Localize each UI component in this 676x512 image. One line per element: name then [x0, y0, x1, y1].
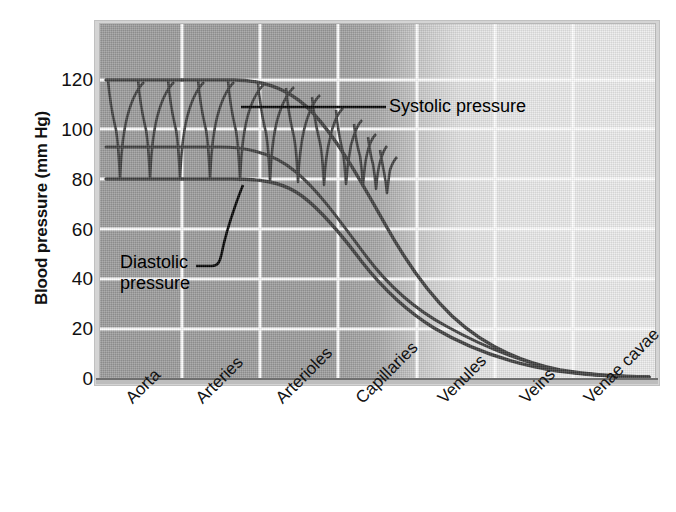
- y-tick-120: 120: [51, 70, 93, 89]
- y-axis-tick-labels: 120 100 80 60 40 20 0: [45, 0, 93, 512]
- gridlines-vertical: [182, 24, 573, 378]
- diastolic-pressure-annotation: Diastolicpressure: [120, 252, 190, 294]
- y-tick-20: 20: [51, 319, 93, 338]
- y-tick-80: 80: [51, 170, 93, 189]
- y-tick-40: 40: [51, 269, 93, 288]
- figure: Blood pressure (mm Hg) 120 100 80 60 40 …: [0, 0, 676, 512]
- y-tick-60: 60: [51, 220, 93, 239]
- plot-svg: [100, 24, 655, 378]
- diastolic-line2: pressure: [120, 273, 190, 293]
- plot-area: [100, 24, 655, 378]
- diastolic-line1: Diastolic: [120, 252, 188, 272]
- y-tick-0: 0: [51, 369, 93, 388]
- diastolic-leader-line: [196, 185, 243, 266]
- y-tick-100: 100: [51, 120, 93, 139]
- systolic-pressure-annotation: Systolic pressure: [389, 96, 526, 117]
- pulse-waveform: [108, 80, 397, 193]
